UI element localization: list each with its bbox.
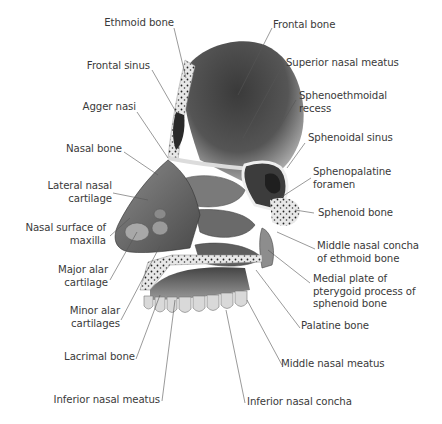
label-inferior-nasal-meatus: Inferior nasal meatus — [10, 394, 160, 407]
label-middle-nasal-concha: Middle nasal concha of ethmoid bone — [317, 240, 419, 265]
external-nose — [115, 160, 200, 253]
label-sphenoethmoidal-recess: Sphenoethmoidal recess — [299, 90, 387, 115]
label-sphenoidal-sinus: Sphenoidal sinus — [308, 132, 393, 145]
label-lacrimal-bone: Lacrimal bone — [20, 351, 135, 364]
label-frontal-bone: Frontal bone — [273, 19, 335, 32]
sphenoid-sinus-shape — [243, 162, 300, 226]
label-inferior-nasal-concha: Inferior nasal concha — [247, 396, 352, 409]
label-minor-alar-cartilages: Minor alar cartilages — [20, 305, 120, 330]
label-nasal-surface-maxilla: Nasal surface of maxilla — [0, 222, 106, 247]
label-medial-plate-pterygoid: Medial plate of pterygoid process of sph… — [313, 273, 415, 311]
label-lateral-nasal-cartilage: Lateral nasal cartilage — [10, 180, 112, 205]
label-middle-nasal-meatus: Middle nasal meatus — [281, 358, 385, 371]
label-ethmoid-bone: Ethmoid bone — [70, 17, 174, 30]
label-sphenoid-bone: Sphenoid bone — [318, 207, 393, 220]
label-major-alar-cartilage: Major alar cartilage — [20, 264, 108, 289]
label-agger-nasi: Agger nasi — [40, 101, 136, 114]
label-nasal-bone: Nasal bone — [20, 143, 122, 156]
nasal-cavity-diagram: Ethmoid bone Frontal sinus Agger nasi Na… — [0, 0, 442, 424]
label-frontal-sinus: Frontal sinus — [40, 60, 150, 73]
label-palatine-bone: Palatine bone — [301, 320, 369, 333]
label-sphenopalatine-foramen: Sphenopalatine foramen — [313, 166, 391, 191]
label-superior-nasal-meatus: Superior nasal meatus — [286, 57, 399, 70]
